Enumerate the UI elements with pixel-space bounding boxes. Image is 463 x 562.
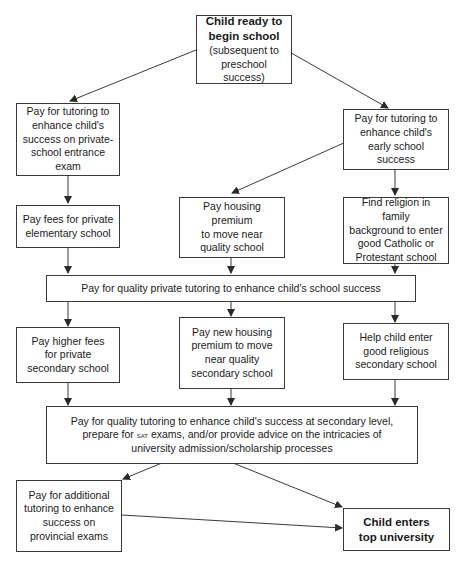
node-text: Pay higher fees: [27, 335, 109, 349]
node-pay-housing-premium: Pay housing premium to move near quality…: [179, 197, 285, 258]
node-text-line: prepare for SAT exams, and/or provide ad…: [71, 428, 393, 442]
node-quality-private-tutoring: Pay for quality private tutoring to enha…: [46, 275, 416, 302]
edge-tutoring-to-provincial: [123, 463, 162, 479]
node-text: good Catholic or: [348, 237, 444, 251]
node-text: elementary school: [23, 227, 113, 241]
edge-tutoring-to-end: [233, 463, 342, 507]
node-text: secondary school: [27, 362, 109, 376]
node-text: Pay for quality tutoring to enhance chil…: [71, 415, 393, 429]
node-title: Child ready to: [201, 14, 287, 29]
node-text: Protestant school: [348, 251, 444, 265]
node-find-religion: Find religion in family background to en…: [343, 197, 449, 264]
node-text: success on: [24, 516, 114, 530]
node-text: enhance child's: [348, 126, 444, 140]
node-text: near quality: [191, 353, 273, 367]
node-text: secondary school: [355, 358, 437, 372]
node-text: Pay for tutoring to: [21, 105, 115, 119]
node-text: Pay for additional: [24, 489, 114, 503]
node-additional-tutoring-provincial-exams: Pay for additional tutoring to enhance s…: [16, 480, 122, 552]
node-text: success on private-: [21, 133, 115, 147]
node-text: Find religion in family: [348, 196, 444, 223]
node-pay-tutoring-early-success: Pay for tutoring to enhance child's earl…: [343, 109, 449, 170]
node-text: Pay new housing: [191, 326, 273, 340]
edge-start-to-private-tutoring: [70, 50, 196, 101]
node-text: university admission/scholarship process…: [71, 442, 393, 456]
node-title: top university: [359, 530, 434, 545]
node-text: Help child enter: [355, 331, 437, 345]
node-pay-tutoring-entrance-exam: Pay for tutoring to enhance child's succ…: [16, 103, 120, 176]
node-text: school entrance exam: [21, 146, 115, 173]
node-title: Child enters: [359, 515, 434, 530]
sat-abbrev: SAT: [137, 430, 148, 440]
node-child-ready-to-begin-school: Child ready to begin school (subsequent …: [196, 15, 292, 84]
node-pay-new-housing-premium: Pay new housing premium to move near qua…: [179, 317, 285, 389]
node-subtitle: (subsequent to: [201, 44, 287, 58]
node-text: background to enter: [348, 224, 444, 238]
node-help-child-religious-secondary: Help child enter good religious secondar…: [343, 323, 449, 380]
node-text: tutoring to enhance: [24, 502, 114, 516]
node-pay-higher-fees-private-secondary: Pay higher fees for private secondary sc…: [16, 327, 120, 383]
node-text: premium to move: [191, 339, 273, 353]
node-text: for private: [27, 348, 109, 362]
node-text: Pay housing premium: [184, 200, 280, 227]
node-text: early school success: [348, 140, 444, 167]
edge-provincial-to-end: [122, 515, 342, 528]
node-text: secondary school: [191, 367, 273, 381]
node-subtitle: preschool success): [201, 58, 287, 85]
node-pay-fees-private-elementary: Pay fees for private elementary school: [16, 205, 120, 248]
node-child-enters-top-university: Child enters top university: [343, 508, 450, 551]
node-text: quality school: [184, 241, 280, 255]
node-text: Pay for tutoring to: [348, 112, 444, 126]
node-text: provincial exams: [24, 530, 114, 544]
node-title: begin school: [201, 29, 287, 44]
node-text: to move near: [184, 228, 280, 242]
edge-start-to-early-tutoring: [286, 50, 388, 108]
node-text: prepare for: [83, 428, 137, 440]
node-text: good religious: [355, 345, 437, 359]
node-text: enhance child's: [21, 119, 115, 133]
node-text: Pay fees for private: [23, 213, 113, 227]
node-text: Pay for quality private tutoring to enha…: [81, 282, 381, 296]
edge-early-tutoring-to-housing: [232, 142, 346, 193]
node-secondary-level-tutoring: Pay for quality tutoring to enhance chil…: [46, 406, 418, 464]
node-text: exams, and/or provide advice on the intr…: [148, 428, 381, 440]
